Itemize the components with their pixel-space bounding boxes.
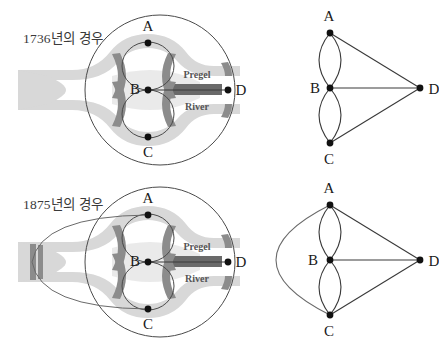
graph-label-d: D <box>429 81 439 97</box>
graph-edge-cd <box>330 88 420 143</box>
graph-edge-ab-left <box>319 33 330 88</box>
graph-node-d <box>417 85 424 92</box>
graph-edge-bc-right <box>330 88 341 143</box>
graph-edge-ac-outer <box>276 205 330 315</box>
graph-label-d: D <box>429 253 439 269</box>
graph-edge-ab-right <box>330 205 341 260</box>
graph-label-b: B <box>308 252 318 268</box>
graph-edge-ab-left <box>319 205 330 260</box>
panel-1875: 1875년의 경우 <box>0 172 439 343</box>
panel-1736: 1736년의 경우 <box>0 0 439 171</box>
graph-node-c <box>327 312 334 319</box>
graph-node-b <box>327 257 334 264</box>
graph-label-b: B <box>310 80 320 96</box>
graph-node-a <box>327 202 334 209</box>
graph-label-a: A <box>324 8 335 24</box>
graph-label-c: C <box>324 151 334 167</box>
graph-edge-bc-right <box>330 260 341 315</box>
graph-label-c: C <box>324 323 334 339</box>
graph-edge-bc-left <box>319 260 330 315</box>
graph-edge-ab-right <box>330 33 341 88</box>
graph-node-b <box>327 85 334 92</box>
graph-edge-ad <box>330 33 420 88</box>
graph-edge-cd <box>330 260 420 315</box>
graph-node-a <box>327 30 334 37</box>
graph-edge-bc-left <box>319 88 330 143</box>
graph-label-a: A <box>324 180 335 196</box>
graph-node-d <box>417 257 424 264</box>
graph-node-c <box>327 140 334 147</box>
graph-edge-ad <box>330 205 420 260</box>
konigsberg-graph-1875: A B C D <box>0 172 439 343</box>
konigsberg-graph-1736: A B C D <box>0 0 439 171</box>
konigsberg-figure: 1736년의 경우 <box>0 0 439 343</box>
